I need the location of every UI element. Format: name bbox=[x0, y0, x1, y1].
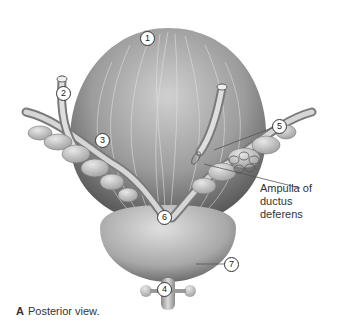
annotation-line-2: ductus deferens bbox=[260, 195, 337, 221]
annotation-ampulla: Ampulla of ductus deferens bbox=[260, 182, 337, 221]
bladder bbox=[70, 28, 266, 222]
caption-text: Posterior view. bbox=[28, 305, 100, 317]
label-6: 6 bbox=[157, 210, 172, 225]
label-1: 1 bbox=[140, 31, 155, 46]
annotation-line-1: Ampulla of bbox=[260, 182, 337, 195]
caption-letter: A bbox=[16, 305, 24, 317]
label-5: 5 bbox=[272, 119, 287, 134]
label-7: 7 bbox=[224, 257, 239, 272]
anatomy-figure: 1 2 3 4 5 6 7 Ampulla of ductus deferens… bbox=[0, 0, 337, 326]
figure-caption: APosterior view. bbox=[16, 305, 99, 317]
label-3: 3 bbox=[95, 133, 110, 148]
label-4: 4 bbox=[157, 282, 172, 297]
label-2: 2 bbox=[56, 86, 71, 101]
anatomy-illustration bbox=[0, 0, 337, 326]
